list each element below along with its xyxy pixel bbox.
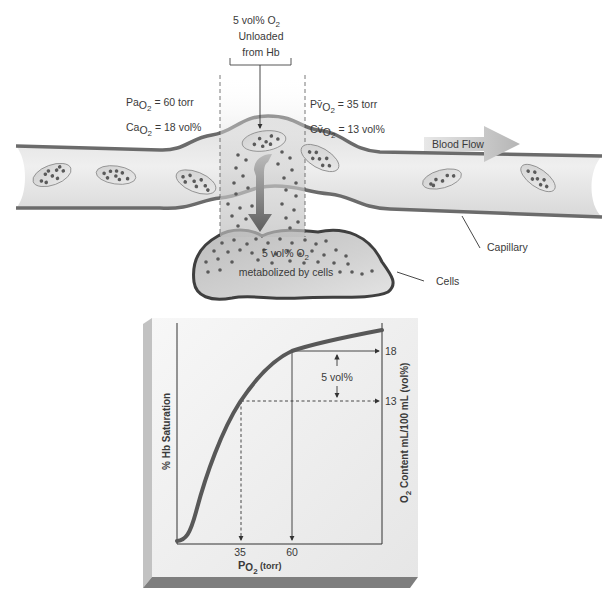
unload-bracket [230, 58, 291, 65]
x-tick-35: 35 [234, 546, 246, 558]
y-axis-left-label: % Hb Saturation [161, 393, 172, 470]
cells-body [194, 230, 394, 299]
y-tick-18: 18 [385, 345, 397, 357]
oxyhemoglobin-chart: 5 vol% 35 60 18 13 PO2 (torr) % Hb Satur… [143, 318, 418, 588]
oxygen-unloading-diagram: 5 vol% O2 Unloaded from Hb PaO2 = 60 tor… [0, 0, 615, 595]
chart-box-left-bevel [143, 318, 152, 588]
tissue-cells [194, 230, 394, 299]
venous-values: Pv̄O2 = 35 torr Cv̄O2 = 13 vol% [310, 98, 385, 140]
cells-callout: Cells [397, 272, 459, 287]
capillary-callout: Capillary [462, 216, 529, 253]
annotation-5-vol: 5 vol% [321, 371, 353, 383]
svg-text:Capillary: Capillary [487, 241, 529, 253]
arterial-values: PaO2 = 60 torr CaO2 = 18 vol% [126, 96, 201, 138]
chart-box-bottom-bevel [143, 577, 418, 588]
x-tick-60: 60 [286, 546, 298, 558]
cao2-label: CaO2 = 18 vol% [126, 121, 201, 138]
svg-text:Cells: Cells [436, 275, 459, 287]
svg-text:from Hb: from Hb [242, 46, 280, 58]
svg-text:Blood Flow: Blood Flow [432, 138, 484, 150]
pao2-label: PaO2 = 60 torr [126, 96, 194, 113]
svg-text:5 vol% O2: 5 vol% O2 [233, 14, 281, 29]
y-tick-13: 13 [385, 395, 397, 407]
svg-text:Unloaded: Unloaded [239, 30, 284, 42]
pvo2-label: Pv̄O2 = 35 torr [310, 98, 378, 115]
unloaded-label: 5 vol% O2 Unloaded from Hb [233, 14, 284, 58]
svg-text:metabolized by cells: metabolized by cells [239, 266, 334, 278]
